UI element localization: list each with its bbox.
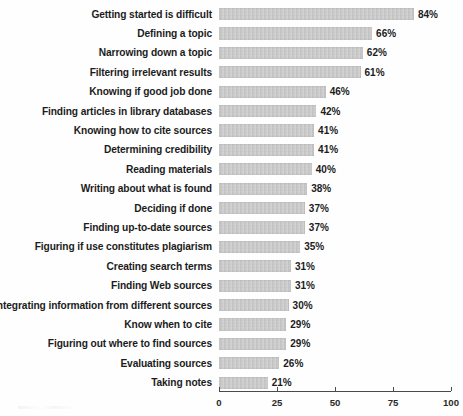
bar-row: Defining a topic66% <box>0 24 463 43</box>
bar <box>219 357 279 369</box>
bar-value-label: 21% <box>272 373 292 392</box>
axis-tick <box>335 387 336 392</box>
bar-track <box>219 27 451 39</box>
bar-value-label: 42% <box>320 102 340 121</box>
axis-tick-label: 75 <box>388 397 399 408</box>
bar <box>219 221 305 233</box>
bar-track <box>219 8 451 20</box>
bar-value-label: 29% <box>290 334 310 353</box>
bar-track <box>219 338 451 350</box>
category-label: Evaluating sources <box>120 354 212 373</box>
bar-row: Finding Web sources31% <box>0 276 463 295</box>
bar-value-label: 41% <box>318 121 338 140</box>
bar-value-label: 26% <box>283 354 303 373</box>
bar-row: Figuring out where to find sources29% <box>0 334 463 353</box>
bar-track <box>219 299 451 311</box>
bar-row: Evaluating sources26% <box>0 354 463 373</box>
bar-row: Determining credibility41% <box>0 140 463 159</box>
category-label: Taking notes <box>151 373 212 392</box>
axis-tick-label: 100 <box>443 397 459 408</box>
bar <box>219 47 363 59</box>
bar-row: Writing about what is found38% <box>0 179 463 198</box>
bar <box>219 183 307 195</box>
bar <box>219 86 326 98</box>
bar <box>219 105 316 117</box>
bar-row: Knowing how to cite sources41% <box>0 121 463 140</box>
category-label: Filtering irrelevant results <box>90 63 212 82</box>
category-label: Determining credibility <box>104 140 212 159</box>
category-label: Figuring if use constitutes plagiarism <box>35 237 212 256</box>
bar <box>219 8 414 20</box>
bar-row: Creating search terms31% <box>0 257 463 276</box>
bar-value-label: 62% <box>367 43 387 62</box>
bar-value-label: 30% <box>293 296 313 315</box>
bar-track <box>219 357 451 369</box>
category-label: Deciding if done <box>134 199 212 218</box>
bar <box>219 27 372 39</box>
scan-artifact <box>18 406 78 409</box>
bar-value-label: 35% <box>304 237 324 256</box>
category-label: Finding articles in library databases <box>42 102 212 121</box>
category-label: Narrowing down a topic <box>99 43 212 62</box>
bar-value-label: 66% <box>376 24 396 43</box>
bar <box>219 124 314 136</box>
bar-track <box>219 280 451 292</box>
category-label: Finding Web sources <box>111 276 212 295</box>
bar-row: Know when to cite29% <box>0 315 463 334</box>
bar-row: Deciding if done37% <box>0 199 463 218</box>
bar-value-label: 38% <box>311 179 331 198</box>
category-label: Integrating information from different s… <box>0 296 212 315</box>
bar-track <box>219 318 451 330</box>
bar <box>219 241 300 253</box>
bar <box>219 318 286 330</box>
bar <box>219 144 314 156</box>
bar-value-label: 37% <box>309 218 329 237</box>
category-label: Know when to cite <box>124 315 212 334</box>
bar <box>219 202 305 214</box>
bar-value-label: 31% <box>295 257 315 276</box>
bar-value-label: 46% <box>330 82 350 101</box>
bar <box>219 338 286 350</box>
category-label: Writing about what is found <box>81 179 212 198</box>
axis-tick-label: 25 <box>272 397 283 408</box>
bar-track <box>219 66 451 78</box>
bar-track <box>219 202 451 214</box>
bar-value-label: 31% <box>295 276 315 295</box>
bar-row: Integrating information from different s… <box>0 296 463 315</box>
bar-value-label: 29% <box>290 315 310 334</box>
bar-value-label: 37% <box>309 199 329 218</box>
bar-value-label: 40% <box>316 160 336 179</box>
bar-track <box>219 260 451 272</box>
bar-track <box>219 221 451 233</box>
category-label: Knowing if good job done <box>89 82 212 101</box>
bar <box>219 163 312 175</box>
bar-value-label: 61% <box>365 63 385 82</box>
bar-row: Figuring if use constitutes plagiarism35… <box>0 237 463 256</box>
bar-row: Finding articles in library databases42% <box>0 102 463 121</box>
category-label: Defining a topic <box>137 24 212 43</box>
bar-value-label: 84% <box>418 5 438 24</box>
category-label: Knowing how to cite sources <box>74 121 212 140</box>
axis-tick-label: 0 <box>216 397 221 408</box>
bar-row: Getting started is difficult84% <box>0 5 463 24</box>
bar-row: Filtering irrelevant results61% <box>0 63 463 82</box>
bar <box>219 260 291 272</box>
axis-tick <box>451 387 452 392</box>
bar <box>219 280 291 292</box>
bar-value-label: 41% <box>318 140 338 159</box>
bar-row: Finding up-to-date sources37% <box>0 218 463 237</box>
category-label: Figuring out where to find sources <box>48 334 212 353</box>
category-label: Reading materials <box>126 160 212 179</box>
axis-tick <box>219 387 220 392</box>
category-label: Getting started is difficult <box>91 5 212 24</box>
bar-track <box>219 241 451 253</box>
bar-row: Knowing if good job done46% <box>0 82 463 101</box>
category-label: Finding up-to-date sources <box>83 218 212 237</box>
bar <box>219 377 268 389</box>
axis-tick-label: 50 <box>330 397 341 408</box>
bar <box>219 66 361 78</box>
bar-row: Narrowing down a topic62% <box>0 43 463 62</box>
bar-row: Reading materials40% <box>0 160 463 179</box>
bar-track <box>219 47 451 59</box>
axis-tick <box>277 387 278 392</box>
